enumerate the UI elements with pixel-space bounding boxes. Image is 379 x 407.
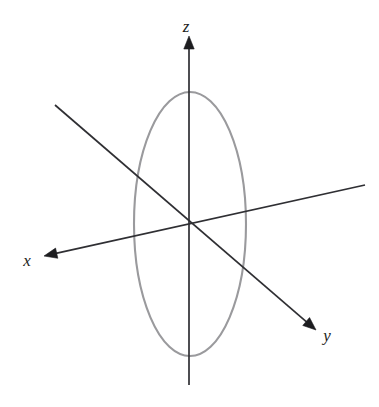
coordinate-axes-diagram: z x y	[0, 0, 379, 407]
x-axis-label: x	[22, 251, 31, 270]
figure-canvas: z x y	[0, 0, 379, 407]
z-axis-label: z	[182, 17, 190, 36]
x-axis-arrowhead-icon	[44, 248, 58, 258]
y-axis-line	[55, 105, 308, 323]
y-axis-label: y	[321, 326, 331, 345]
z-axis-arrowhead-icon	[184, 36, 194, 49]
x-axis-line	[55, 185, 365, 254]
